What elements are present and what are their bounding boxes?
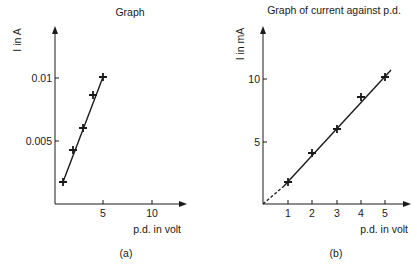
chart-a: Graph I in A 0.01 0.005 5 10 p.d. in vol… — [11, 6, 183, 259]
chart-b-y-tick-label: 10 — [248, 73, 260, 85]
chart-b-y-label: I in mA — [234, 28, 246, 61]
chart-b-y-tick-label: 5 — [254, 136, 260, 148]
data-point — [79, 124, 87, 132]
figure: Graph I in A 0.01 0.005 5 10 p.d. in vol… — [0, 0, 417, 266]
data-point — [59, 178, 67, 186]
chart-a-caption: (a) — [120, 247, 133, 259]
chart-a-points — [59, 73, 107, 186]
chart-a-y-label: I in A — [11, 28, 23, 51]
chart-a-y-tick-label: 0.01 — [32, 72, 53, 84]
chart-b-x-tick-label: 4 — [358, 207, 364, 219]
chart-b-x-tick-label: 3 — [334, 207, 340, 219]
chart-b-x-tick-label: 5 — [382, 207, 388, 219]
chart-b-x-tick-label: 1 — [285, 207, 291, 219]
chart-a-y-tick-label: 0.005 — [26, 135, 52, 147]
chart-b-fit-line-extrapolated — [263, 186, 284, 204]
chart-b-caption: (b) — [330, 247, 343, 259]
chart-b-x-tick-label: 2 — [309, 207, 315, 219]
data-point — [308, 149, 316, 157]
chart-a-x-tick-label: 10 — [146, 207, 158, 219]
chart-a-x-label: p.d. in volt — [133, 223, 181, 235]
chart-b-x-label: p.d. in volt — [360, 223, 408, 235]
chart-a-x-tick-label: 5 — [100, 207, 106, 219]
chart-a-title: Graph — [115, 6, 144, 18]
chart-b: Graph of current against p.d. I in mA 10… — [234, 4, 408, 259]
chart-b-title: Graph of current against p.d. — [267, 4, 401, 16]
data-point — [99, 73, 107, 81]
